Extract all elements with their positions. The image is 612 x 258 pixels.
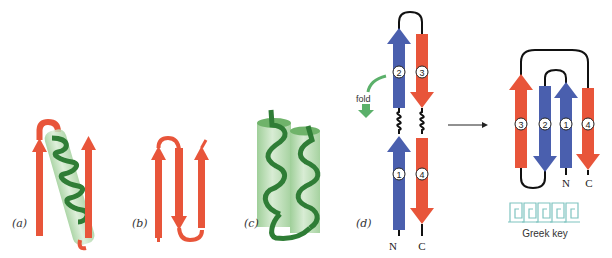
arrowhead-icon (387, 136, 411, 152)
n-terminus-label: N (389, 240, 397, 252)
svg-text:4: 4 (585, 120, 590, 130)
svg-text:4: 4 (419, 170, 424, 180)
panel-label-b: (b) (132, 217, 148, 230)
beta-strand (198, 158, 205, 228)
strand-number-4: 4 (416, 168, 428, 180)
beta-strand (36, 150, 43, 236)
linker-squiggle (397, 108, 400, 134)
strand-number-3: 3 (515, 118, 527, 130)
panel-label-d: (d) (356, 217, 372, 230)
svg-text:1: 1 (563, 120, 568, 130)
arrowhead-icon (576, 154, 600, 170)
beta-strand-1 (393, 150, 405, 230)
linker-squiggle (420, 108, 423, 134)
arrowhead-icon (151, 146, 166, 160)
arrowhead-icon (554, 82, 578, 98)
loop (545, 70, 566, 88)
panel-label-a: (a) (12, 217, 27, 230)
strand-number-1: 1 (560, 118, 572, 130)
beta-strand-3 (416, 34, 428, 94)
svg-text:1: 1 (396, 170, 401, 180)
loop (399, 12, 422, 34)
strand-number-4: 4 (582, 118, 594, 130)
panel-b-beta-meander: (b) (132, 138, 209, 242)
fold-label: fold (356, 94, 371, 104)
arrowhead-icon (81, 136, 96, 150)
svg-text:2: 2 (542, 120, 547, 130)
panel-d-hairpin: 2 3 1 4 N C fold (d) (356, 12, 434, 252)
greek-key-caption: Greek key (522, 228, 568, 239)
arrowhead-icon (410, 92, 434, 108)
arrowhead-icon (387, 28, 411, 44)
c-terminus-label: C (418, 240, 425, 252)
c-terminus-label: C (585, 177, 592, 189)
beta-strand (175, 148, 183, 218)
strand-number-1: 1 (393, 168, 405, 180)
greek-key-topology: 3 2 1 4 N C Greek key (508, 50, 600, 239)
beta-strand (155, 158, 162, 238)
panel-label-c: (c) (244, 217, 259, 230)
beta-strand-1 (560, 96, 572, 168)
beta-strand (85, 148, 92, 238)
strand-number-2: 2 (393, 66, 405, 78)
arrowhead-icon (533, 156, 557, 172)
strand-number-2: 2 (539, 118, 551, 130)
arrowhead-icon (410, 208, 434, 224)
loop (521, 168, 545, 188)
panel-c-alpha-alpha: (c) (244, 110, 320, 239)
svg-text:2: 2 (396, 68, 401, 78)
greek-key-pattern-icon (508, 203, 580, 222)
panel-a-beta-alpha-beta: (a) (12, 122, 96, 248)
svg-text:3: 3 (518, 120, 523, 130)
svg-text:3: 3 (419, 68, 424, 78)
supersecondary-structures-figure: (a) (b) (c) (0, 0, 612, 258)
arrowhead-icon (171, 216, 187, 230)
arrowhead-icon (509, 74, 533, 90)
strand-number-3: 3 (416, 66, 428, 78)
n-terminus-label: N (562, 177, 570, 189)
transition-arrow-icon (448, 122, 488, 128)
arrowhead-icon (194, 146, 209, 160)
